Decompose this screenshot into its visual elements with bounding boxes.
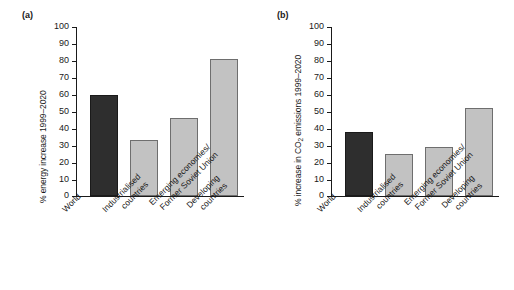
panel-b-y-axis-title-subscript: 2 [297,138,304,142]
panel-a: (a) % energy increase 1999–2020 100 90 8… [0,0,257,290]
panel-a-tick-50: 50 [72,112,76,113]
panel-a-tick-60: 60 [72,95,76,96]
panel-b-tick-40: 40 [327,129,331,130]
panel-a-tick-label-100: 100 [54,21,69,32]
panel-b-tag: (b) [277,10,289,20]
panel-a-plot-area: 100 90 80 70 60 50 40 30 20 10 0 [76,27,244,197]
panel-b-tick-label-10: 10 [314,174,324,185]
panel-b-tick-label-50: 50 [314,106,324,117]
panel-a-category-labels: World Industrialised countries Emerging … [0,199,257,289]
panel-b-tick-label-20: 20 [314,157,324,168]
panel-a-tick-label-60: 60 [59,89,69,100]
panel-a-tick-label-10: 10 [59,174,69,185]
panel-a-tick-label-50: 50 [59,106,69,117]
panel-b-tick-80: 80 [327,61,331,62]
panel-b-y-axis-title-post: emissions 1999–2020 [293,55,303,138]
figure-two-panel-bar-charts: (a) % energy increase 1999–2020 100 90 8… [0,0,514,290]
panel-a-bars [77,27,244,196]
panel-a-tick-80: 80 [72,61,76,62]
panel-a-tag: (a) [22,10,33,20]
panel-b-tick-label-80: 80 [314,55,324,66]
panel-b-tick-label-100: 100 [309,21,324,32]
bar-world [90,95,118,196]
panel-a-tick-40: 40 [72,129,76,130]
panel-b-tick-label-40: 40 [314,123,324,134]
panel-b-bars [332,27,499,196]
panel-a-tick-label-40: 40 [59,123,69,134]
panel-b-y-axis-title: % increase in CO2 emissions 1999–2020 [293,55,303,206]
panel-b-tick-60: 60 [327,95,331,96]
panel-b-tick-30: 30 [327,146,331,147]
panel-b-tick-100: 100 [327,27,331,28]
panel-b-category-labels: World Industrialised countries Emerging … [257,199,514,289]
panel-a-tick-90: 90 [72,44,76,45]
panel-b-tick-label-70: 70 [314,72,324,83]
panel-b-tick-10: 10 [327,180,331,181]
panel-b-tick-50: 50 [327,112,331,113]
panel-a-tick-100: 100 [72,27,76,28]
panel-b-tick-20: 20 [327,163,331,164]
panel-b: (b) % increase in CO2 emissions 1999–202… [257,0,514,290]
panel-a-tick-20: 20 [72,163,76,164]
panel-a-tick-label-80: 80 [59,55,69,66]
panel-a-tick-10: 10 [72,180,76,181]
panel-b-plot-area: 100 90 80 70 60 50 40 30 20 10 0 [331,27,499,197]
panel-a-tick-30: 30 [72,146,76,147]
panel-a-tick-label-90: 90 [59,38,69,49]
panel-a-tick-label-70: 70 [59,72,69,83]
panel-a-tick-label-20: 20 [59,157,69,168]
panel-b-tick-label-90: 90 [314,38,324,49]
panel-a-y-axis-title: % energy increase 1999–2020 [38,90,48,203]
panel-a-tick-70: 70 [72,78,76,79]
panel-b-tick-label-60: 60 [314,89,324,100]
panel-b-tick-70: 70 [327,78,331,79]
panel-b-y-axis-title-pre: % increase in CO [293,141,303,206]
bar-world [345,132,373,196]
panel-a-tick-label-30: 30 [59,140,69,151]
panel-b-tick-90: 90 [327,44,331,45]
panel-b-tick-label-30: 30 [314,140,324,151]
